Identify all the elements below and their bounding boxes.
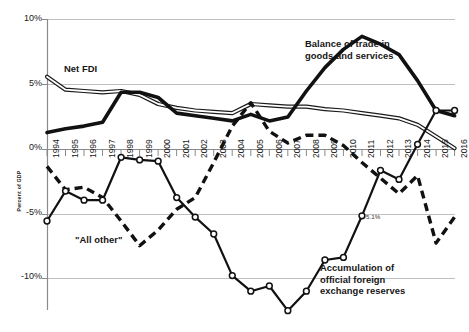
- x-tick-2014: 2014: [422, 139, 432, 158]
- x-tick-1997: 1997: [107, 139, 117, 158]
- x-tick-1998: 1998: [125, 139, 135, 158]
- x-tick-2013: 2013: [403, 139, 413, 158]
- x-tick-2001: 2001: [181, 139, 191, 158]
- annotation-net-fdi: Net FDI: [64, 63, 97, 75]
- x-tick-2000: 2000: [162, 139, 172, 158]
- x-tick-2009: 2009: [329, 139, 339, 158]
- x-tick-2015: 2015: [440, 139, 450, 158]
- annotation-trade-balance: Balance of trade in goods and services: [305, 38, 393, 61]
- x-tick-2008: 2008: [311, 139, 321, 158]
- x-tick-2016: 2016: [459, 139, 469, 158]
- series-2: [47, 103, 455, 246]
- x-tick-1994: 1994: [51, 139, 61, 158]
- data-label-reserves-2011: -5.1%: [364, 213, 380, 220]
- x-tick-2012: 2012: [385, 139, 395, 158]
- annotation-all-other: "All other": [75, 234, 122, 246]
- x-tick-2002: 2002: [199, 139, 209, 158]
- x-tick-2007: 2007: [292, 139, 302, 158]
- x-tick-2011: 2011: [366, 140, 376, 158]
- x-tick-2006: 2006: [274, 139, 284, 158]
- annotation-reserves: Accumulation of official foreign exchang…: [320, 262, 405, 297]
- x-tick-2004: 2004: [236, 139, 246, 158]
- x-tick-2010: 2010: [348, 139, 358, 158]
- x-tick-1996: 1996: [88, 139, 98, 158]
- x-tick-2003: 2003: [218, 139, 228, 158]
- x-tick-1995: 1995: [70, 139, 80, 158]
- x-tick-1999: 1999: [144, 139, 154, 158]
- y-tick-marks: [42, 20, 47, 279]
- x-tick-2005: 2005: [255, 139, 265, 158]
